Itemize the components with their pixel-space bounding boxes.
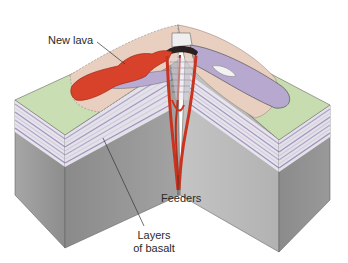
- new-lava-label: New lava: [48, 34, 93, 47]
- layers-label-line2: of basalt: [129, 242, 179, 255]
- layers-label-line1: Layers: [129, 229, 179, 242]
- volcano-block-diagram: New lava Feeders Layers of basalt: [0, 0, 348, 263]
- feeders-label: Feeders: [161, 192, 201, 205]
- vent-cap: [172, 33, 192, 47]
- layers-of-basalt-label: Layers of basalt: [129, 229, 179, 255]
